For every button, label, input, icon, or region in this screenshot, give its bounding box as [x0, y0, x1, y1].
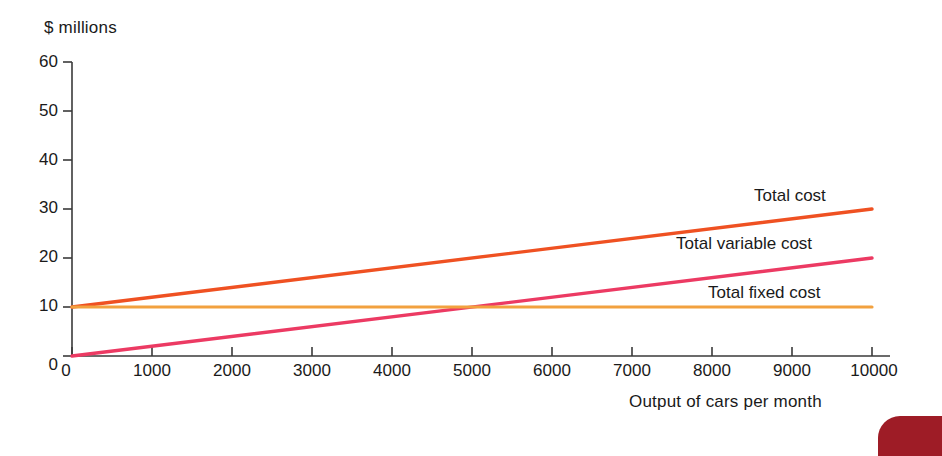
page-corner-mark	[878, 416, 942, 456]
series-label-total-variable-cost: Total variable cost	[676, 234, 812, 254]
series-label-total-cost: Total cost	[754, 186, 826, 206]
x-tick-marks	[72, 347, 872, 356]
series-label-total-fixed-cost: Total fixed cost	[708, 283, 820, 303]
y-tick-marks	[63, 62, 72, 356]
